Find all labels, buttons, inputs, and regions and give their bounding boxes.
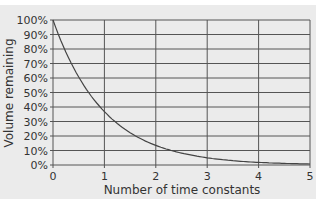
x-tick-label: 3 (204, 170, 211, 183)
y-tick-label: 90% (24, 29, 48, 42)
x-tick-label: 2 (152, 170, 159, 183)
y-axis-tick-labels: 0%10%20%30%40%50%60%70%80%90%100% (17, 14, 48, 172)
y-tick-label: 50% (24, 87, 48, 100)
y-tick-label: 20% (24, 130, 48, 143)
y-tick-label: 60% (24, 72, 48, 85)
y-axis-title: Volume remaining (2, 38, 16, 147)
y-tick-label: 30% (24, 116, 48, 129)
chart: 0%10%20%30%40%50%60%70%80%90%100% 012345… (0, 0, 326, 211)
y-tick-label: 100% (17, 14, 48, 27)
x-axis-title: Number of time constants (104, 183, 261, 197)
x-axis-tick-labels: 012345 (50, 170, 314, 183)
x-tick-label: 1 (101, 170, 108, 183)
y-tick-label: 70% (24, 58, 48, 71)
y-tick-label: 0% (31, 159, 48, 172)
y-tick-label: 80% (24, 43, 48, 56)
y-tick-label: 40% (24, 101, 48, 114)
y-tick-label: 10% (24, 145, 48, 158)
x-tick-label: 5 (307, 170, 314, 183)
x-tick-label: 0 (50, 170, 57, 183)
x-tick-label: 4 (255, 170, 262, 183)
